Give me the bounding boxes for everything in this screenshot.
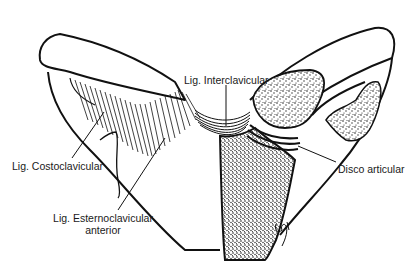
label-interclavicular: Lig. Interclavicular	[184, 74, 269, 86]
label-sternoclavicular-anterior-line1: Lig. Esternoclavicular	[52, 212, 154, 224]
first-rib-cartilage	[326, 82, 381, 141]
label-costoclavicular: Lig. Costoclavicular	[12, 160, 103, 172]
interclavicular-ligament	[195, 110, 250, 135]
label-articular-disc: Disco articular	[338, 163, 405, 175]
sternum-manubrium	[220, 128, 295, 260]
leader-articular-disc	[298, 146, 336, 162]
label-sternoclavicular-anterior-line2: anterior	[52, 224, 154, 236]
label-sternoclavicular-anterior: Lig. Esternoclavicular anterior	[52, 212, 154, 236]
